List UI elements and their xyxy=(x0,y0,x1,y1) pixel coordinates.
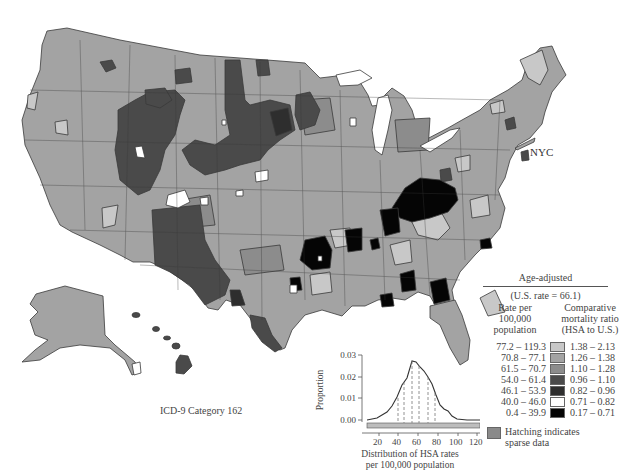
legend-title: Age-adjusted xyxy=(483,272,608,287)
legend-swatch xyxy=(550,386,565,396)
legend-cmr: 0.17 – 0.71 xyxy=(565,407,615,418)
legend-cmr: 1.38 – 2.13 xyxy=(565,341,615,352)
nyc-marker xyxy=(521,150,529,161)
svg-text:0.00: 0.00 xyxy=(340,415,356,425)
legend-cmr: 0.96 – 1.10 xyxy=(565,374,615,385)
legend-row: 0.4 – 39.9 0.17 – 0.71 xyxy=(480,407,631,418)
hawaii xyxy=(132,313,192,375)
legend-swatch xyxy=(550,408,565,418)
distribution-plot: 0.03 0.02 0.01 0.00 xyxy=(300,345,480,440)
nyc-label: NYC xyxy=(530,146,553,158)
hatching-note: Hatching indicates sparse data xyxy=(487,426,631,448)
legend-swatch xyxy=(550,342,565,352)
map-caption: ICD-9 Category 162 xyxy=(160,405,242,416)
legend-row: 40.0 – 46.0 0.71 – 0.82 xyxy=(480,396,631,407)
legend-row: 46.1 – 53.9 0.82 – 0.96 xyxy=(480,385,631,396)
legend-row: 77.2 – 119.3 1.38 – 2.13 xyxy=(480,341,631,352)
distribution-chart: 0.03 0.02 0.01 0.00 20 40 60 80 100 120 … xyxy=(300,345,480,468)
legend-headers: Rate per 100,000 population Comparative … xyxy=(480,302,631,335)
y-axis-label: Proportion xyxy=(315,370,325,411)
legend-cmr: 0.71 – 0.82 xyxy=(565,396,615,407)
x-axis-label: Distribution of HSA rates per 100,000 po… xyxy=(335,449,485,471)
legend: Age-adjusted (U.S. rate = 66.1) Rate per… xyxy=(480,272,631,448)
legend-rate: 54.0 – 61.4 xyxy=(480,374,550,385)
legend-rate: 40.0 – 46.0 xyxy=(480,396,550,407)
hatching-swatch xyxy=(487,427,501,439)
legend-row: 70.8 – 77.1 1.26 – 1.38 xyxy=(480,352,631,363)
legend-row: 61.5 – 70.7 1.10 – 1.28 xyxy=(480,363,631,374)
legend-rate: 70.8 – 77.1 xyxy=(480,352,550,363)
legend-rate: 61.5 – 70.7 xyxy=(480,363,550,374)
legend-cmr: 1.10 – 1.28 xyxy=(565,363,615,374)
legend-rate: 77.2 – 119.3 xyxy=(480,341,550,352)
legend-rate: 0.4 – 39.9 xyxy=(480,407,550,418)
legend-rate: 46.1 – 53.9 xyxy=(480,385,550,396)
legend-cmr: 1.26 – 1.38 xyxy=(565,352,615,363)
legend-rows: 77.2 – 119.3 1.38 – 2.13 70.8 – 77.1 1.2… xyxy=(480,341,631,418)
legend-swatch xyxy=(550,364,565,374)
legend-us-rate: (U.S. rate = 66.1) xyxy=(483,290,608,301)
legend-swatch xyxy=(550,397,565,407)
svg-text:0.03: 0.03 xyxy=(340,350,356,360)
svg-text:0.02: 0.02 xyxy=(340,372,356,382)
rate-header: Rate per 100,000 population xyxy=(480,302,550,335)
alaska xyxy=(22,286,140,375)
legend-swatch xyxy=(550,353,565,363)
svg-text:0.01: 0.01 xyxy=(340,393,356,403)
legend-swatch xyxy=(550,375,565,385)
cmr-header: Comparative mortality ratio (HSA to U.S.… xyxy=(550,302,630,335)
legend-cmr: 0.82 – 0.96 xyxy=(565,385,615,396)
legend-row: 54.0 – 61.4 0.96 – 1.10 xyxy=(480,374,631,385)
